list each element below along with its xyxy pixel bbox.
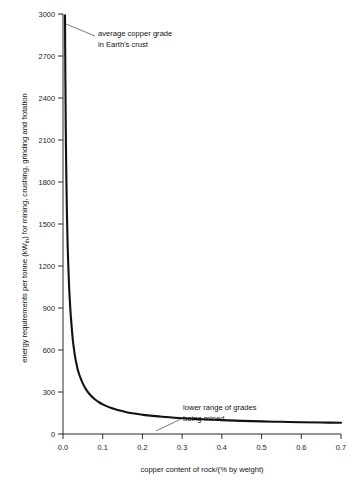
y-axis-title-main: energy requirements per tonne (kW	[20, 243, 29, 363]
chart-background	[0, 0, 358, 489]
y-axis-title: energy requirements per tonne (kWth) for…	[20, 93, 30, 363]
x-tick-label-0.4: 0.4	[217, 443, 227, 452]
energy-vs-copper-grade-chart: 03006009001200150018002100240027003000 0…	[0, 0, 358, 489]
y-tick-label-600: 600	[43, 346, 55, 355]
x-tick-label-0.0: 0.0	[58, 443, 68, 452]
y-tick-label-2400: 2400	[39, 94, 55, 103]
y-tick-label-300: 300	[43, 388, 55, 397]
y-axis-title-tail: ) for mining, crushing, grinding and flo…	[20, 93, 29, 239]
y-tick-label-900: 900	[43, 304, 55, 313]
y-tick-label-3000: 3000	[39, 10, 55, 19]
y-tick-label-2100: 2100	[39, 136, 55, 145]
y-tick-label-0: 0	[51, 430, 55, 439]
x-tick-label-0.7: 0.7	[336, 443, 346, 452]
x-tick-label-0.1: 0.1	[98, 443, 108, 452]
x-tick-label-0.2: 0.2	[137, 443, 147, 452]
y-tick-label-1200: 1200	[39, 262, 55, 271]
average-copper-grade-annotation-line-1: average copper grade	[98, 29, 172, 38]
x-tick-label-0.3: 0.3	[177, 443, 187, 452]
x-tick-label-0.5: 0.5	[256, 443, 266, 452]
x-tick-label-0.6: 0.6	[296, 443, 306, 452]
y-tick-label-1800: 1800	[39, 178, 55, 187]
lower-range-of-grades-annotation-line-2: being mined	[183, 414, 224, 423]
chart-figure: 03006009001200150018002100240027003000 0…	[0, 0, 358, 489]
y-tick-label-2700: 2700	[39, 52, 55, 61]
lower-range-of-grades-annotation-line-1: lower range of grades	[183, 403, 257, 412]
x-axis-title: copper content of rock/(% by weight)	[140, 465, 264, 474]
average-copper-grade-annotation-line-2: in Earth's crust	[98, 40, 149, 49]
y-tick-label-1500: 1500	[39, 220, 55, 229]
